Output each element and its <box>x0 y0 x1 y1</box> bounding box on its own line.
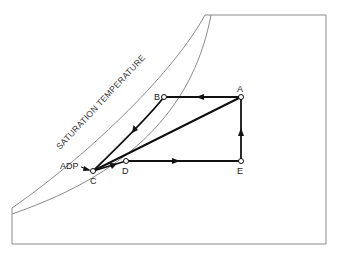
point-c-label: C <box>90 176 97 186</box>
outer-boundary-curve <box>12 15 205 208</box>
point-e-label: E <box>237 166 243 176</box>
point-b-marker <box>162 95 167 100</box>
point-d-label: D <box>122 166 129 176</box>
psychrometric-diagram: SATURATION TEMPERATURE A B C D E ADP <box>0 0 339 255</box>
arrow-e-a-icon <box>238 128 244 136</box>
point-e-marker <box>239 159 244 164</box>
adp-label: ADP <box>60 161 79 171</box>
point-a-marker <box>239 95 244 100</box>
saturation-curve <box>12 15 211 214</box>
point-a-label: A <box>237 84 243 94</box>
process-line-a-c <box>93 97 241 171</box>
arrow-a-b-icon <box>196 94 204 100</box>
point-b-label: B <box>154 92 160 102</box>
point-c-marker <box>91 169 96 174</box>
adp-arrow-icon <box>83 166 91 171</box>
arrow-d-e-icon <box>172 158 180 164</box>
chart-frame <box>12 15 326 244</box>
point-d-marker <box>124 159 129 164</box>
